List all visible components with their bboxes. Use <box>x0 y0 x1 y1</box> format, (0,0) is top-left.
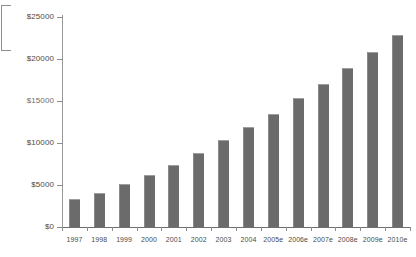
x-axis-label: 2005e <box>261 236 286 244</box>
x-axis-label: 2006e <box>286 236 311 244</box>
y-axis-label: $10000 <box>0 139 54 147</box>
bar <box>268 114 279 227</box>
x-axis-label: 2001 <box>161 236 186 244</box>
x-axis-label: 2008e <box>335 236 360 244</box>
y-axis-label: $25000 <box>0 13 54 21</box>
x-axis-label: 2003 <box>211 236 236 244</box>
bar <box>119 184 130 227</box>
x-axis-tick <box>87 227 88 231</box>
x-axis-label: 2007e <box>311 236 336 244</box>
bar <box>168 165 179 227</box>
y-axis-label: $15000 <box>0 97 54 105</box>
x-axis-tick <box>410 227 411 231</box>
x-axis-label: 2009e <box>360 236 385 244</box>
x-axis-tick <box>335 227 336 231</box>
bar <box>144 175 155 228</box>
x-axis-label: 1997 <box>62 236 87 244</box>
x-axis-tick <box>186 227 187 231</box>
x-axis-tick <box>311 227 312 231</box>
bar <box>342 68 353 227</box>
bar <box>367 52 378 227</box>
bar <box>218 140 229 227</box>
y-axis-label: $0 <box>0 223 54 231</box>
x-axis-tick <box>360 227 361 231</box>
plot-area <box>62 17 410 227</box>
bar <box>94 193 105 227</box>
bar <box>243 127 254 227</box>
x-axis-tick <box>236 227 237 231</box>
y-axis-label: $5000 <box>0 181 54 189</box>
x-axis-tick <box>62 227 63 231</box>
x-axis-tick <box>385 227 386 231</box>
x-axis-tick <box>286 227 287 231</box>
bar <box>293 98 304 227</box>
x-axis-tick <box>137 227 138 231</box>
page-edge-bracket-artifact <box>1 5 11 51</box>
x-axis-tick <box>261 227 262 231</box>
x-axis-tick <box>112 227 113 231</box>
x-axis-label: 1999 <box>112 236 137 244</box>
x-axis-label: 2004 <box>236 236 261 244</box>
y-axis-label: $20000 <box>0 55 54 63</box>
bar <box>318 84 329 227</box>
bar <box>392 35 403 227</box>
x-axis-label: 1998 <box>87 236 112 244</box>
bar-chart: $0$5000$10000$15000$20000$25000 19971998… <box>0 0 416 257</box>
x-axis-tick <box>211 227 212 231</box>
x-axis-tick <box>161 227 162 231</box>
bar <box>69 199 80 227</box>
bar <box>193 153 204 227</box>
x-axis-label: 2010e <box>385 236 410 244</box>
x-axis-label: 2000 <box>137 236 162 244</box>
x-axis-label: 2002 <box>186 236 211 244</box>
